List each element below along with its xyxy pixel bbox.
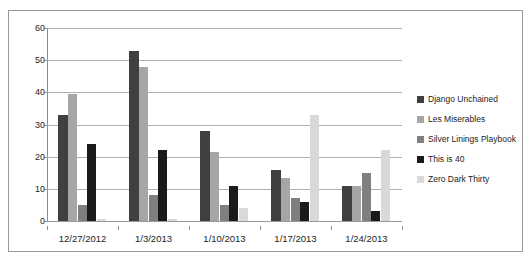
legend-swatch-icon xyxy=(417,176,424,183)
legend-item[interactable]: Silver Linings Playbook xyxy=(417,129,527,149)
y-axis-tick-label: 0 xyxy=(23,217,45,226)
x-axis-tick-label: 1/24/2013 xyxy=(345,234,387,244)
x-axis-tick xyxy=(331,226,332,230)
bar xyxy=(220,205,229,221)
bar xyxy=(310,115,319,221)
x-axis-tick xyxy=(402,226,403,230)
legend-swatch-icon xyxy=(417,136,424,143)
bar xyxy=(158,150,167,221)
y-axis-tick xyxy=(43,60,47,61)
y-axis-tick-label: 60 xyxy=(23,24,45,33)
y-axis-tick-label: 20 xyxy=(23,152,45,161)
bar xyxy=(281,178,290,221)
bar xyxy=(129,51,138,221)
bar-group xyxy=(189,28,260,221)
bar xyxy=(200,131,209,221)
y-axis-tick xyxy=(43,221,47,222)
bar xyxy=(271,170,280,221)
legend-swatch-icon xyxy=(417,156,424,163)
bars-layer xyxy=(47,28,402,221)
chart-legend: Django UnchainedLes MiserablesSilver Lin… xyxy=(417,89,527,189)
bar xyxy=(362,173,371,221)
bar xyxy=(239,208,248,221)
y-axis-tick xyxy=(43,125,47,126)
bar xyxy=(291,198,300,221)
legend-swatch-icon xyxy=(417,96,424,103)
x-axis-tick-label: 12/27/2012 xyxy=(59,234,107,244)
bar xyxy=(87,144,96,221)
legend-label: This is 40 xyxy=(428,155,464,164)
bar xyxy=(229,186,238,221)
y-axis-tick xyxy=(43,157,47,158)
bar xyxy=(149,195,158,221)
bar xyxy=(371,211,380,221)
bar-group xyxy=(331,28,402,221)
x-axis-tick-label: 1/10/2013 xyxy=(203,234,245,244)
bar xyxy=(300,202,309,221)
legend-label: Les Miserables xyxy=(428,115,485,124)
x-axis-labels: 12/27/20121/3/20131/10/20131/17/20131/24… xyxy=(47,226,402,246)
bar-group xyxy=(260,28,331,221)
bar xyxy=(139,67,148,221)
legend-item[interactable]: Django Unchained xyxy=(417,89,527,109)
y-axis-tick-label: 10 xyxy=(23,184,45,193)
bar xyxy=(68,94,77,221)
legend-swatch-icon xyxy=(417,116,424,123)
bar-group xyxy=(118,28,189,221)
legend-label: Silver Linings Playbook xyxy=(428,135,516,144)
legend-item[interactable]: Zero Dark Thirty xyxy=(417,169,527,189)
y-axis-tick-label: 30 xyxy=(23,120,45,129)
x-axis-tick xyxy=(47,226,48,230)
x-axis-tick-label: 1/17/2013 xyxy=(274,234,316,244)
bar xyxy=(210,152,219,221)
x-axis-tick xyxy=(189,226,190,230)
chart-container: 0102030405060 12/27/20121/3/20131/10/201… xyxy=(8,10,523,252)
bar xyxy=(381,150,390,221)
x-axis-tick xyxy=(118,226,119,230)
gridline xyxy=(47,221,402,222)
bar xyxy=(342,186,351,221)
legend-label: Django Unchained xyxy=(428,95,498,104)
plot-area xyxy=(47,28,402,221)
y-axis-tick xyxy=(43,92,47,93)
y-axis-labels: 0102030405060 xyxy=(23,28,45,221)
legend-item[interactable]: Les Miserables xyxy=(417,109,527,129)
y-axis-tick-label: 40 xyxy=(23,88,45,97)
x-axis-tick-label: 1/3/2013 xyxy=(135,234,172,244)
x-axis-tick xyxy=(260,226,261,230)
legend-item[interactable]: This is 40 xyxy=(417,149,527,169)
bar xyxy=(352,186,361,221)
bar-group xyxy=(47,28,118,221)
legend-label: Zero Dark Thirty xyxy=(428,175,489,184)
bar xyxy=(58,115,67,221)
y-axis-tick xyxy=(43,189,47,190)
y-axis-tick-label: 50 xyxy=(23,56,45,65)
bar xyxy=(97,219,106,221)
y-axis-tick xyxy=(43,28,47,29)
bar xyxy=(78,205,87,221)
bar xyxy=(168,219,177,221)
